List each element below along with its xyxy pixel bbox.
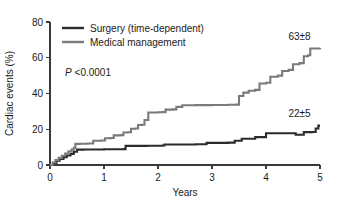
p-value-annotation: P <0.0001 (65, 67, 111, 78)
x-axis-title: Years (172, 187, 197, 198)
surgery-endpoint-annotation: 22±5 (288, 108, 311, 119)
legend-label-medical: Medical management (90, 37, 186, 48)
y-tick-label: 60 (32, 52, 44, 63)
y-axis-title: Cardiac events (%) (4, 51, 15, 136)
x-tick-label: 0 (47, 172, 53, 183)
cardiac-events-chart: 020406080012345YearsCardiac events (%)P … (0, 0, 337, 199)
y-tick-label: 40 (32, 88, 44, 99)
chart-figure: 020406080012345YearsCardiac events (%)P … (0, 0, 337, 199)
x-tick-label: 2 (155, 172, 161, 183)
medical-endpoint-annotation: 63±8 (288, 31, 311, 42)
x-tick-label: 3 (209, 172, 215, 183)
y-tick-label: 80 (32, 17, 44, 28)
legend-label-surgery: Surgery (time-dependent) (90, 23, 204, 34)
series-line-surgery (50, 126, 320, 165)
x-tick-label: 4 (263, 172, 269, 183)
series-line-medical (50, 48, 320, 165)
plot-area: 020406080012345YearsCardiac events (%)P … (4, 17, 323, 198)
y-tick-label: 20 (32, 124, 44, 135)
y-tick-label: 0 (37, 160, 43, 171)
x-tick-label: 1 (101, 172, 107, 183)
x-tick-label: 5 (317, 172, 323, 183)
